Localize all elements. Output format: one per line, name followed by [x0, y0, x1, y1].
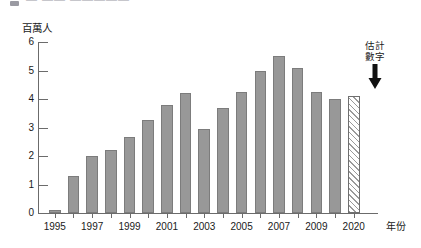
x-axis-tick-label: 1995 [44, 221, 66, 232]
bar-2002 [180, 93, 192, 213]
y-axis-tick [39, 185, 48, 186]
y-axis-tick [39, 71, 48, 72]
x-axis-tick [130, 214, 131, 218]
bar-2008 [292, 68, 304, 213]
x-axis-tick-label: 1997 [81, 221, 103, 232]
estimate-annotation-line2: 數字 [358, 51, 392, 62]
x-axis-tick [298, 214, 299, 218]
estimate-annotation: 估計 數字 [358, 40, 392, 62]
x-axis-tick-label: 2003 [193, 221, 215, 232]
cutoff-header: — —— ————— [10, 0, 240, 9]
x-axis-tick [242, 214, 243, 218]
y-axis-tick [39, 156, 48, 157]
y-axis-tick [39, 128, 48, 129]
bar-2010 [329, 99, 341, 213]
x-axis-tick-label: 2001 [156, 221, 178, 232]
y-axis-tick-label: 4 [20, 94, 34, 104]
x-axis-tick [55, 214, 56, 218]
x-axis-tick [167, 214, 168, 218]
y-axis-tick-label: 3 [20, 123, 34, 133]
x-axis-tick [223, 214, 224, 218]
x-axis-tick-label: 2020 [343, 221, 365, 232]
x-axis-tick [260, 214, 261, 218]
y-axis-unit-label: 百萬人 [22, 20, 52, 35]
x-axis-tick [316, 214, 317, 218]
down-arrow-icon [368, 64, 382, 90]
y-axis-tick [39, 213, 48, 214]
bar-1997 [86, 156, 98, 213]
bar-1996 [68, 176, 80, 213]
y-axis-tick-label: 5 [20, 66, 34, 76]
bar-2004 [217, 108, 229, 213]
chart-figure: — —— ————— 百萬人 0123456 19951997199920012… [0, 0, 421, 248]
x-axis-tick [279, 214, 280, 218]
x-axis-title: 年份 [386, 221, 406, 232]
bar-1999 [124, 137, 136, 213]
bar-2006 [255, 71, 267, 214]
bar-2007 [273, 56, 285, 213]
cutoff-header-text: — —— ————— [26, 0, 130, 5]
y-axis-tick-label: 6 [20, 37, 34, 47]
x-axis-line [38, 213, 378, 214]
x-axis-tick-label: 2005 [231, 221, 253, 232]
x-axis-tick [73, 214, 74, 218]
x-axis-tick [354, 214, 355, 218]
bar-2009 [311, 92, 323, 213]
x-axis-tick [204, 214, 205, 218]
y-axis-tick [39, 99, 48, 100]
bar-1998 [105, 150, 117, 213]
bar-1995 [49, 210, 61, 213]
x-axis-tick [335, 214, 336, 218]
y-axis-tick-label: 1 [20, 180, 34, 190]
bar-2000 [142, 120, 154, 213]
x-axis-tick [111, 214, 112, 218]
y-axis-tick-label: 2 [20, 151, 34, 161]
y-axis-tick [39, 42, 48, 43]
x-axis-tick-label: 2009 [305, 221, 327, 232]
estimate-annotation-line1: 估計 [358, 40, 392, 51]
x-axis-tick [148, 214, 149, 218]
bar-2020 [348, 96, 360, 213]
square-bullet-icon [10, 1, 19, 6]
x-axis-tick-label: 1999 [118, 221, 140, 232]
x-axis-tick [92, 214, 93, 218]
x-axis-tick [186, 214, 187, 218]
bar-2003 [198, 129, 210, 213]
x-axis-tick-label: 2007 [268, 221, 290, 232]
bar-2001 [161, 105, 173, 213]
y-axis-tick-label: 0 [20, 208, 34, 218]
bar-2005 [236, 92, 248, 213]
